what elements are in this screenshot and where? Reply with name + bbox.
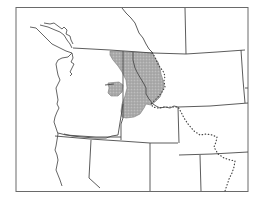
bc-alberta-border: [122, 8, 153, 53]
range-map: [0, 0, 263, 204]
idaho-wyoming-border: [178, 107, 179, 143]
continental-divide: [151, 53, 235, 191]
utah-colorado-border: [200, 155, 201, 191]
us-canada-border-east: [153, 50, 245, 54]
puget-sound: [70, 53, 74, 76]
wyoming-south-border: [179, 152, 248, 155]
california-nevada-border: [89, 140, 100, 188]
alberta-saskatchewan-border: [185, 8, 186, 54]
montana-wyoming-border: [178, 103, 248, 107]
coastline: [30, 27, 72, 186]
montana-dakota-border: [241, 50, 245, 103]
